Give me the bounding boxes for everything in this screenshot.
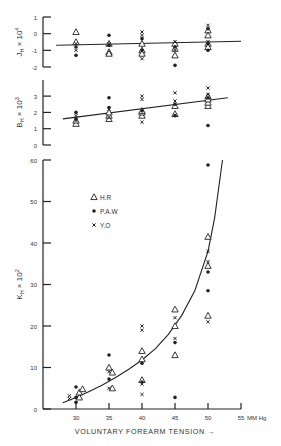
x-tick-label: 40	[139, 415, 146, 421]
triangle-marker	[205, 234, 211, 240]
panel-K: 6050403020100KH × 102303540455055MM HgVO…	[14, 158, 266, 437]
triangle-marker	[73, 29, 79, 35]
triangle-marker	[205, 312, 211, 318]
dot-marker	[140, 109, 144, 113]
fit-line	[56, 41, 241, 45]
dot-marker	[107, 34, 111, 38]
dot-marker	[140, 37, 144, 41]
dot-marker	[74, 54, 78, 58]
y-tick-label: 30	[30, 282, 37, 288]
dot-marker	[206, 270, 210, 274]
chart-canvas: 10-1-2JH × 1043210BH × 1036050403020100K…	[0, 0, 281, 446]
y-tick-label: 20	[30, 324, 37, 330]
dot-marker	[140, 362, 144, 366]
y-tick-label: 1	[34, 126, 38, 132]
y-tick-label: 2	[34, 110, 38, 116]
triangle-marker	[106, 364, 112, 370]
dot-marker	[92, 209, 96, 213]
triangle-marker	[139, 348, 145, 354]
dot-marker	[206, 289, 210, 293]
dot-marker	[74, 385, 78, 389]
legend-label: P.A.W	[100, 208, 118, 215]
x-axis-label: VOLUNTARY FOREARM TENSION →	[75, 427, 215, 436]
x-tick-label: 55	[238, 415, 245, 421]
triangle-marker	[172, 306, 178, 312]
dot-marker	[107, 377, 111, 381]
series-yo	[68, 250, 210, 401]
dot-marker	[173, 341, 177, 345]
legend-label: Y.O	[100, 222, 110, 229]
x-unit-label: MM Hg	[247, 415, 266, 421]
dot-marker	[74, 111, 78, 115]
dot-marker	[173, 102, 177, 106]
y-tick-label: 40	[30, 241, 37, 247]
triangle-marker	[139, 356, 145, 362]
legend-label: H.R	[100, 194, 112, 201]
triangle-marker	[172, 323, 178, 329]
y-tick-label: 3	[34, 94, 38, 100]
dot-marker	[173, 64, 177, 68]
dot-marker	[74, 45, 78, 49]
dot-marker	[206, 96, 210, 100]
y-tick-label: 0	[34, 407, 38, 413]
x-tick-label: 35	[106, 415, 113, 421]
triangle-marker	[79, 386, 85, 392]
y-axis-label: KH × 102	[14, 269, 25, 299]
y-tick-label: 60	[30, 158, 37, 164]
fit-line	[63, 160, 223, 403]
triangle-marker	[106, 109, 112, 115]
series-hr	[76, 234, 211, 400]
y-tick-label: 10	[30, 365, 37, 371]
triangle-marker	[91, 194, 97, 200]
dot-marker	[206, 124, 210, 128]
dot-marker	[173, 396, 177, 400]
triangle-marker	[172, 52, 178, 58]
dot-marker	[107, 353, 111, 357]
y-tick-label: 0	[34, 143, 38, 149]
panel-J: 10-1-2JH × 104	[14, 15, 241, 71]
legend: H.RP.A.WY.O	[91, 194, 119, 229]
dot-marker	[173, 45, 177, 49]
triangle-marker	[172, 352, 178, 358]
triangle-marker	[205, 263, 211, 269]
y-axis-label: JH × 104	[14, 27, 25, 56]
x-tick-label: 50	[205, 415, 212, 421]
dot-marker	[107, 96, 111, 100]
y-tick-label: -1	[32, 48, 38, 54]
x-tick-label: 30	[73, 415, 80, 421]
dot-marker	[206, 49, 210, 53]
dot-marker	[74, 396, 78, 400]
figure: 10-1-2JH × 1043210BH × 1036050403020100K…	[0, 0, 281, 446]
y-tick-label: -2	[32, 65, 38, 71]
dot-marker	[173, 114, 177, 118]
y-tick-label: 1	[34, 15, 38, 21]
x-tick-label: 45	[172, 415, 179, 421]
y-tick-label: 50	[30, 199, 37, 205]
dot-marker	[206, 163, 210, 167]
panel-B: 3210BH × 103	[14, 80, 228, 149]
dot-marker	[140, 49, 144, 53]
y-axis-label: BH × 103	[14, 97, 25, 127]
y-tick-label: 0	[34, 31, 38, 37]
fit-line	[63, 98, 228, 119]
dot-marker	[206, 27, 210, 31]
